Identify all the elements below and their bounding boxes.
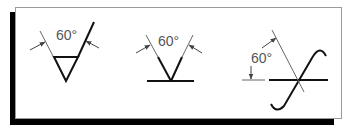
weld-symbol-diagram: 60° 60° 60°	[0, 0, 348, 133]
angle-label: 60°	[251, 50, 272, 66]
angle-label: 60°	[158, 33, 179, 49]
frame-shadow-bottom	[10, 118, 334, 125]
angle-label: 60°	[56, 27, 77, 43]
